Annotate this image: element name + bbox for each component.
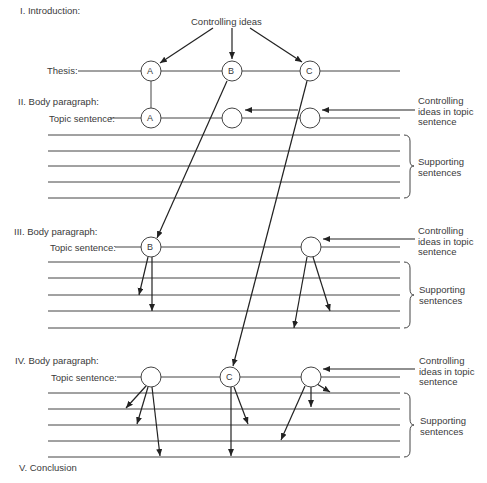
controlling-ideas-label: Controlling ideas	[191, 16, 262, 27]
supporting-sentences-label-2: Supporting sentences	[418, 157, 464, 178]
section-conclusion: V. Conclusion	[19, 462, 77, 473]
body4-node-c-label: C	[226, 372, 233, 383]
controlling-ideas-topic-label-4: Controlling ideas in topic sentence	[419, 356, 474, 388]
controlling-ideas-topic-label-3: Controlling ideas in topic sentence	[418, 226, 473, 258]
label-line: Supporting	[420, 416, 466, 427]
label-line: Controlling	[419, 356, 474, 367]
thesis-node-b-label: B	[228, 66, 234, 77]
body2-node-a-label: A	[147, 113, 153, 124]
label-line: Supporting	[418, 157, 464, 168]
topic-sentence-label-4: Topic sentence:	[51, 372, 117, 383]
label-line: Supporting	[419, 285, 465, 296]
body3-node-empty	[301, 237, 321, 257]
label-line: Controlling	[418, 226, 473, 237]
thesis-node-a-label: A	[147, 66, 153, 77]
label-line: sentences	[418, 168, 464, 179]
section-body-paragraph-3: III. Body paragraph:	[14, 226, 97, 237]
body2-node-empty-2	[300, 108, 320, 128]
label-line: Controlling	[418, 96, 473, 107]
label-line: sentence	[418, 247, 473, 258]
supporting-sentences-label-4: Supporting sentences	[420, 416, 466, 437]
body4-node-empty-1	[141, 367, 161, 387]
body4-node-empty-2	[301, 367, 321, 387]
section-body-paragraph-4: IV. Body paragraph:	[15, 355, 99, 366]
section-body-paragraph-2: II. Body paragraph:	[18, 96, 99, 107]
section-introduction: I. Introduction:	[20, 5, 80, 16]
body3-node-b-label: B	[147, 242, 153, 253]
thesis-label: Thesis:	[47, 65, 78, 76]
topic-sentence-label-3: Topic sentence:	[50, 242, 116, 253]
supporting-sentences-label-3: Supporting sentences	[419, 285, 465, 306]
label-line: sentences	[420, 427, 466, 438]
body2-node-empty-1	[222, 108, 242, 128]
controlling-ideas-topic-label-2: Controlling ideas in topic sentence	[418, 96, 473, 128]
topic-sentence-label-2: Topic sentence:	[49, 113, 115, 124]
thesis-node-c-label: C	[306, 66, 313, 77]
label-line: sentence	[418, 117, 473, 128]
label-line: sentence	[419, 377, 474, 388]
label-line: sentences	[419, 296, 465, 307]
